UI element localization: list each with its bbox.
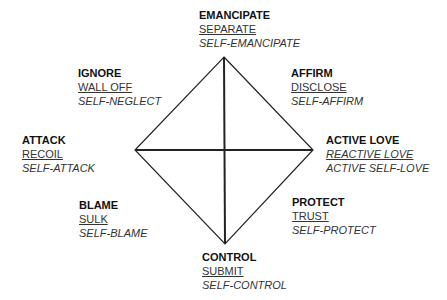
node-reactive: SUBMIT: [202, 264, 287, 278]
node-self: SELF-BLAME: [79, 226, 147, 240]
node-reactive: WALL OFF: [78, 80, 161, 94]
node-reactive: RECOIL: [22, 147, 95, 161]
node-title: PROTECT: [292, 195, 376, 209]
node-reactive: SULK: [79, 212, 147, 226]
node-ignore: IGNORE WALL OFF SELF-NEGLECT: [78, 66, 161, 108]
node-title: IGNORE: [78, 66, 161, 80]
node-self: SELF-ATTACK: [22, 161, 95, 175]
node-self: SELF-CONTROL: [202, 278, 287, 292]
node-control: CONTROL SUBMIT SELF-CONTROL: [202, 250, 287, 292]
node-active-love: ACTIVE LOVE REACTIVE LOVE ACTIVE SELF-LO…: [326, 133, 429, 175]
node-affirm: AFFIRM DISCLOSE SELF-AFFIRM: [291, 66, 363, 108]
node-title: AFFIRM: [291, 66, 363, 80]
node-self: ACTIVE SELF-LOVE: [326, 161, 429, 175]
node-reactive: DISCLOSE: [291, 80, 363, 94]
node-self: SELF-AFFIRM: [291, 94, 363, 108]
node-title: CONTROL: [202, 250, 287, 264]
node-title: BLAME: [79, 198, 147, 212]
node-attack: ATTACK RECOIL SELF-ATTACK: [22, 133, 95, 175]
node-reactive: TRUST: [292, 209, 376, 223]
node-self: SELF-EMANCIPATE: [199, 36, 300, 50]
node-title: ACTIVE LOVE: [326, 133, 429, 147]
node-blame: BLAME SULK SELF-BLAME: [79, 198, 147, 240]
node-self: SELF-PROTECT: [292, 223, 376, 237]
node-title: EMANCIPATE: [199, 8, 300, 22]
node-title: ATTACK: [22, 133, 95, 147]
node-protect: PROTECT TRUST SELF-PROTECT: [292, 195, 376, 237]
node-reactive: REACTIVE LOVE: [326, 147, 429, 161]
node-emancipate: EMANCIPATE SEPARATE SELF-EMANCIPATE: [199, 8, 300, 50]
node-reactive: SEPARATE: [199, 22, 300, 36]
node-self: SELF-NEGLECT: [78, 94, 161, 108]
